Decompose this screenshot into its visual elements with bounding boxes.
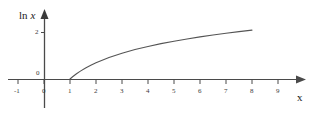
x-axis-arrow-icon	[296, 76, 306, 84]
x-tick-label-2: 2	[94, 88, 98, 95]
x-axis-title: x	[297, 92, 303, 103]
x-tick-label--1: -1	[14, 88, 20, 95]
ln-x-curve	[70, 30, 252, 79]
y-axis-title-prefix: ln	[19, 9, 28, 21]
x-tick-label-5: 5	[172, 88, 176, 95]
x-tick-label-0: 0	[42, 88, 46, 95]
x-tick-label-3: 3	[120, 88, 124, 95]
y-axis-title: lnx	[19, 10, 35, 21]
plot-canvas	[0, 0, 316, 115]
x-tick-label-4: 4	[146, 88, 150, 95]
x-axis-ticks	[18, 80, 278, 85]
y-tick-label-0: 0	[36, 70, 40, 77]
x-tick-label-6: 6	[198, 88, 202, 95]
x-tick-label-1: 1	[68, 88, 72, 95]
figure-ln-x-plot: lnx x 2 0 -1 0 1 2 3 4 5 6 7 8 9	[0, 0, 316, 115]
x-tick-label-9: 9	[276, 88, 280, 95]
x-tick-label-8: 8	[250, 88, 254, 95]
y-axis-arrow-icon	[41, 9, 49, 19]
x-tick-label-7: 7	[224, 88, 228, 95]
y-tick-label-2: 2	[35, 29, 39, 36]
y-axis-title-var: x	[31, 9, 36, 21]
